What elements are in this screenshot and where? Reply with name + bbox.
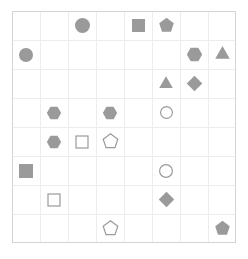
filled-diamond-glyph (186, 76, 201, 91)
filled-circle-glyph (75, 18, 90, 33)
filled-triangle (208, 40, 236, 69)
open-square-glyph (48, 194, 60, 206)
filled-hexagon-glyph (47, 135, 61, 147)
filled-square-glyph (132, 19, 145, 32)
open-pentagon-glyph (103, 221, 118, 235)
open-pentagon (96, 127, 124, 156)
open-pentagon (96, 214, 124, 243)
open-circle (152, 156, 180, 185)
open-pentagon-glyph (103, 134, 118, 148)
filled-pentagon (152, 11, 180, 40)
shape-grid-figure (0, 0, 248, 259)
open-square (68, 127, 96, 156)
filled-square (124, 11, 152, 40)
open-circle-glyph (160, 107, 172, 119)
open-circle-glyph (160, 164, 173, 177)
filled-triangle-glyph (215, 46, 230, 59)
filled-hexagon (180, 40, 208, 69)
filled-circle-glyph (19, 48, 33, 62)
filled-circle (12, 40, 40, 69)
filled-hexagon (40, 127, 68, 156)
filled-square-glyph (19, 164, 33, 178)
filled-hexagon (96, 98, 124, 127)
open-square-glyph (76, 136, 88, 148)
filled-diamond-glyph (158, 192, 173, 207)
filled-triangle (152, 69, 180, 98)
filled-pentagon-glyph (159, 18, 174, 32)
filled-hexagon-glyph (47, 106, 61, 118)
filled-diamond (152, 185, 180, 214)
filled-pentagon-glyph (215, 221, 230, 235)
filled-diamond (180, 69, 208, 98)
filled-circle (68, 11, 96, 40)
grid-container (12, 11, 236, 243)
shape-layer (12, 11, 236, 243)
open-square (40, 185, 68, 214)
filled-triangle-glyph (159, 76, 173, 88)
filled-square (12, 156, 40, 185)
filled-hexagon-glyph (186, 48, 201, 61)
filled-pentagon (208, 214, 236, 243)
filled-hexagon-glyph (103, 106, 117, 118)
filled-hexagon (40, 98, 68, 127)
open-circle (152, 98, 180, 127)
